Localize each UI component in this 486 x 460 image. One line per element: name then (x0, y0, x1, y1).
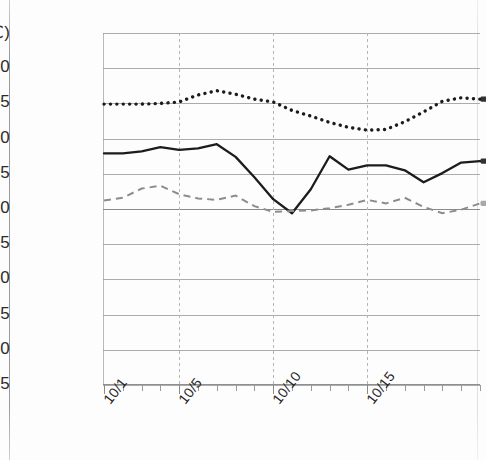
series-endcap-minimum-temperature (481, 201, 486, 206)
x-tick-10-18 (424, 385, 425, 391)
x-tick-10-7 (217, 385, 218, 391)
y-tick-label--20: -20 (0, 339, 10, 359)
x-tick-10-13 (330, 385, 331, 391)
y-tick-label-0: 0 (0, 198, 10, 218)
y-tick-label--5: -5 (0, 233, 10, 253)
series-line-maximum-temperature (104, 91, 480, 130)
chart-figure: 25(℃)20151050-5-10-15-20-25 10/110/510/1… (0, 0, 486, 460)
x-tick-10-12 (311, 385, 312, 391)
y-axis-tick-labels: 25(℃)20151050-5-10-15-20-25 (0, 0, 96, 460)
y-tick-label-10: 10 (0, 128, 10, 148)
y-tick-label--25: -25 (0, 374, 10, 394)
series-layer (103, 33, 480, 385)
x-tick-10-14 (348, 385, 349, 391)
series-endcap-maximum-temperature (481, 97, 486, 102)
series-endcap-mean-temperature (481, 159, 486, 164)
series-line-mean-temperature (104, 144, 480, 213)
x-tick-10-19 (442, 385, 443, 391)
x-tick-10-17 (405, 385, 406, 391)
x-tick-10-8 (236, 385, 237, 391)
y-tick-label--15: -15 (0, 304, 10, 324)
series-line-minimum-temperature (104, 186, 480, 213)
y-tick-label-5: 5 (0, 163, 10, 183)
x-tick-10-20 (461, 385, 462, 391)
x-tick-10-3 (142, 385, 143, 391)
x-tick-10-4 (160, 385, 161, 391)
x-tick-10-9 (254, 385, 255, 391)
y-tick-label-20: 20 (0, 57, 10, 77)
x-tick-10-21 (480, 385, 481, 391)
y-tick-label--10: -10 (0, 268, 10, 288)
y-tick-label-15: 15 (0, 92, 10, 112)
y-tick-label-25: 25(℃) (0, 22, 10, 43)
plot-area (103, 33, 480, 385)
